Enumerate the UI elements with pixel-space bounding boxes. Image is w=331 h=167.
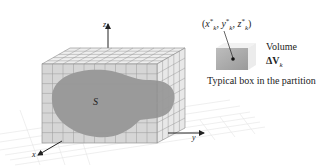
x-axis-label: x xyxy=(32,150,36,159)
region-label: S xyxy=(93,96,98,107)
z-axis-label: z xyxy=(103,20,106,29)
sample-point-label: (x*k, y*k, z*k) xyxy=(202,17,251,32)
y-axis-label: y xyxy=(192,133,196,142)
delta-v-label: ΔVk xyxy=(266,55,283,69)
sample-point xyxy=(231,57,235,61)
volume-label: Volume xyxy=(266,41,297,52)
diagram-canvas: z y x S (x*k, y*k, z*k) Volume ΔVk Typic… xyxy=(0,0,331,167)
inset-caption: Typical box in the partition xyxy=(207,75,316,86)
